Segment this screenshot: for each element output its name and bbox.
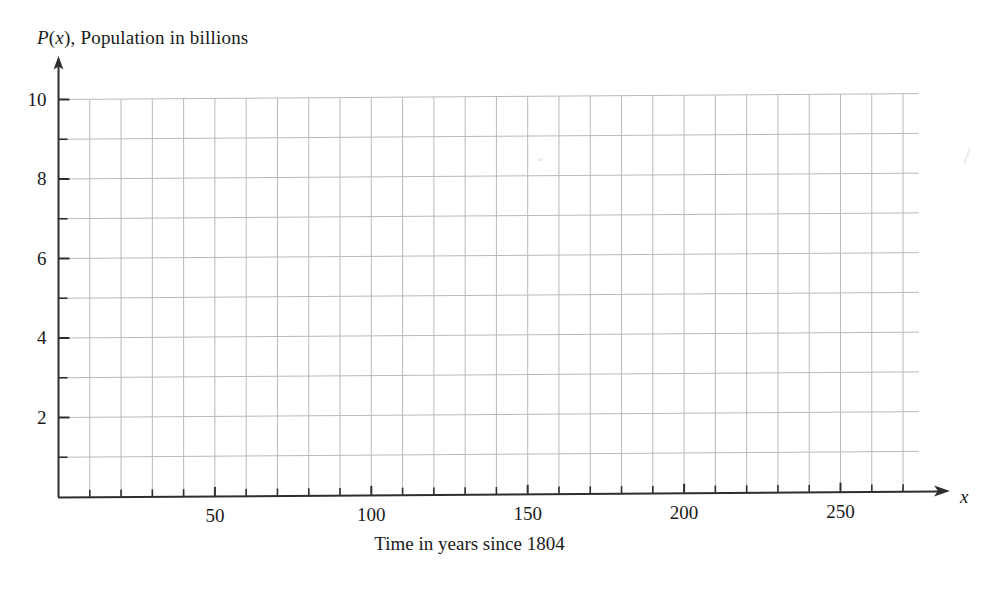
grid-line-horizontal: [59, 332, 919, 338]
x-tick-label: 100: [357, 504, 386, 526]
grid-line-horizontal: [59, 133, 919, 139]
x-axis-variable-label: x: [960, 486, 968, 508]
grid-line-horizontal: [59, 372, 919, 378]
x-tick-label: 250: [826, 501, 855, 523]
grid-line-horizontal: [59, 173, 919, 179]
x-axis-caption-text: Time in years since 1804: [374, 533, 564, 555]
grid-line-horizontal: [59, 94, 919, 100]
x-axis-line: [58, 492, 938, 498]
y-tick-label: 10: [0, 89, 47, 111]
x-tick-label: 50: [205, 505, 224, 527]
chart-figure: P(x), Population in billions 246810 5010…: [0, 0, 999, 590]
x-tick-label: 200: [670, 502, 699, 524]
grid-line-horizontal: [59, 292, 919, 298]
grid-line-horizontal: [59, 451, 919, 457]
y-tick-label: 8: [0, 168, 47, 190]
y-tick-label: 4: [0, 327, 47, 349]
y-tick-label: 6: [0, 248, 47, 270]
x-tick-label: 150: [513, 503, 542, 525]
grid-line-horizontal: [59, 213, 919, 219]
axis-lines: [54, 56, 950, 498]
grid-line-horizontal: [59, 412, 919, 418]
y-tick-label: 2: [0, 407, 47, 429]
x-axis-caption: Time in years since 1804: [0, 533, 999, 555]
grid-lines: [59, 94, 919, 497]
tick-marks: [59, 100, 904, 497]
grid-line-horizontal: [59, 253, 919, 259]
